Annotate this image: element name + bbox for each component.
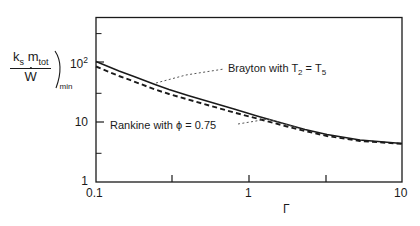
plot-frame bbox=[96, 18, 402, 183]
y-axis-major-ticks bbox=[96, 62, 104, 122]
chart-figure: ks mtot W min 102 10 1 0.1 1 10 Γ Brayto… bbox=[0, 0, 420, 226]
x-axis-ticks bbox=[172, 175, 326, 182]
leader-line-brayton bbox=[156, 69, 224, 83]
plot-area bbox=[0, 0, 420, 226]
series-brayton-curve bbox=[96, 62, 402, 144]
leader-line-rankine bbox=[238, 119, 298, 128]
series-rankine-curve bbox=[96, 67, 402, 144]
y-axis-minor-ticks bbox=[96, 34, 102, 154]
